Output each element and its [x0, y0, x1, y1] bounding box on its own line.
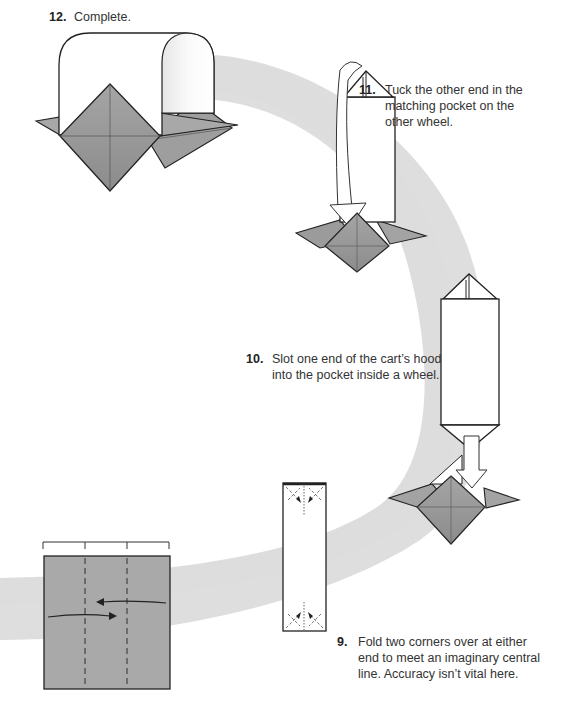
step-text-line: Fold two corners over at either	[337, 634, 557, 650]
diagram-hood-slotted-into-wheel	[389, 274, 519, 544]
step-12-caption: 12. Complete.	[49, 9, 131, 25]
step-text-line: matching pocket on the	[359, 98, 559, 114]
step-11-caption: 11. Tuck the other end in the matching p…	[359, 82, 559, 130]
step-number: 12.	[49, 9, 66, 25]
step-9-caption: 9. Fold two corners over at either end t…	[337, 634, 557, 682]
instruction-page: 12. Complete. 11. Tuck the other end in …	[0, 0, 574, 701]
diagram-folded-strip	[283, 483, 326, 631]
diagram-square-thirds	[43, 542, 170, 689]
step-text-line: Tuck the other end in the	[359, 82, 559, 98]
step-10-caption: 10. Slot one end of the cart’s hood into…	[246, 351, 456, 383]
step-text-line: other wheel.	[359, 114, 559, 130]
step-number: 9.	[337, 634, 347, 650]
step-number: 10.	[246, 351, 263, 367]
step-number: 11.	[359, 82, 376, 98]
step-text-line: line. Accuracy isn’t vital here.	[337, 666, 557, 682]
step-text-line: Slot one end of the cart’s hood	[246, 351, 456, 367]
diagram-finished-cart	[36, 33, 238, 191]
step-text-line: end to meet an imaginary central	[337, 650, 557, 666]
step-text-line: into the pocket inside a wheel.	[246, 367, 456, 383]
